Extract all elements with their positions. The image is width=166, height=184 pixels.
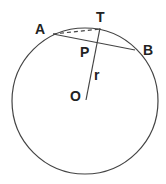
label-r: r <box>94 67 100 83</box>
circle-chord-diagram: A T B P r O <box>0 0 166 184</box>
label-t: T <box>96 9 105 25</box>
label-p: P <box>80 44 89 60</box>
label-o: O <box>70 88 81 104</box>
label-a: A <box>35 21 45 37</box>
label-b: B <box>143 42 153 58</box>
radius-ot <box>86 28 100 100</box>
chord-ab <box>53 34 135 50</box>
dashed-segment-at <box>53 29 100 34</box>
